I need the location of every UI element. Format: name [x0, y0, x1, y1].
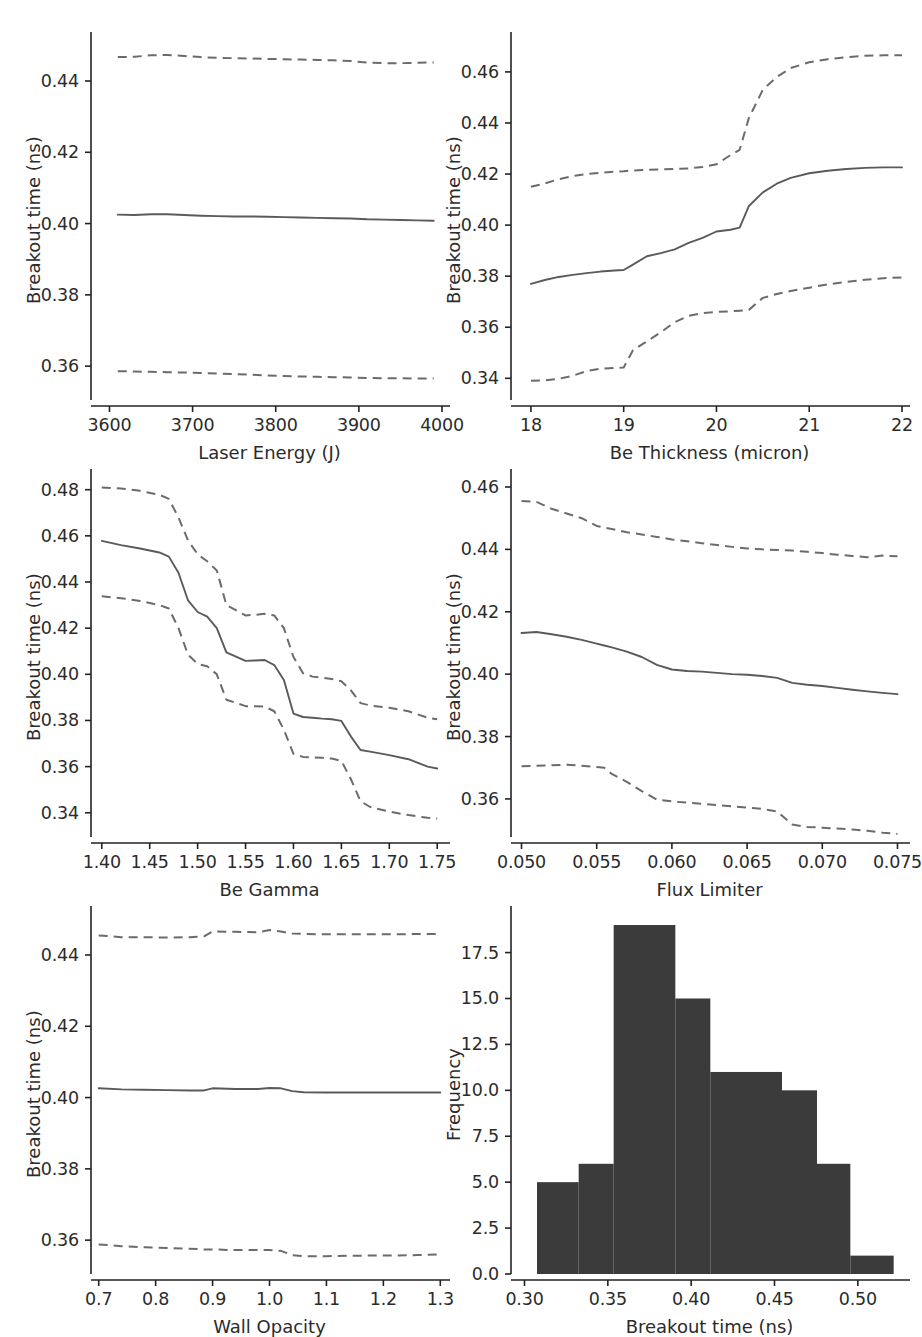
x-tick-label: 1.60	[274, 852, 312, 872]
x-tick-label: 18	[520, 415, 542, 435]
y-tick-label: 17.5	[461, 943, 499, 963]
y-tick-label: 0.40	[461, 664, 499, 684]
series-median	[102, 541, 437, 769]
x-tick-label: 1.50	[179, 852, 217, 872]
series-median	[531, 167, 902, 283]
histogram-bar	[675, 998, 710, 1274]
chart-canvas-breakout-histogram	[517, 914, 902, 1274]
x-tick-label: 1.45	[131, 852, 169, 872]
histogram-bar	[537, 1182, 579, 1274]
y-axis-title: Breakout time (ns)	[443, 136, 464, 304]
plot-area-be-thickness: 0.340.360.380.400.420.440.461819202122Be…	[517, 40, 902, 400]
x-tick-label: 1.75	[418, 852, 456, 872]
y-tick-label: 0.44	[461, 113, 499, 133]
x-axis-title: Wall Opacity	[213, 1316, 326, 1337]
x-tick-label: 3900	[337, 415, 381, 435]
series-lower-quantile	[531, 277, 902, 380]
y-tick-label: 0.34	[461, 368, 499, 388]
x-tick-label: 0.055	[572, 852, 621, 872]
series-median	[118, 214, 434, 220]
x-tick-label: 1.55	[226, 852, 264, 872]
plot-area-wall-opacity: 0.360.380.400.420.440.70.80.91.01.11.21.…	[97, 914, 442, 1274]
x-tick-label: 0.50	[839, 1289, 877, 1309]
chart-canvas-be-gamma	[97, 477, 442, 837]
histogram-bar	[817, 1164, 850, 1274]
x-tick-label: 21	[798, 415, 820, 435]
y-tick-label: 0.42	[41, 618, 79, 638]
y-tick-label: 0.36	[41, 1230, 79, 1250]
panel-laser-energy: 0.360.380.400.420.4436003700380039004000…	[0, 0, 460, 437]
chart-canvas-wall-opacity	[97, 914, 442, 1274]
x-tick-label: 0.40	[672, 1289, 710, 1309]
x-tick-label: 1.65	[322, 852, 360, 872]
series-upper-quantile	[522, 501, 898, 557]
chart-canvas-laser-energy	[97, 40, 442, 400]
y-tick-label: 0.48	[41, 480, 79, 500]
y-tick-label: 0.0	[472, 1264, 499, 1284]
x-tick-label: 1.3	[427, 1289, 454, 1309]
y-tick-label: 10.0	[461, 1080, 499, 1100]
y-tick-label: 0.42	[41, 1016, 79, 1036]
y-tick-label: 0.40	[41, 214, 79, 234]
x-tick-label: 4000	[420, 415, 464, 435]
series-upper-quantile	[118, 55, 434, 63]
y-tick-label: 0.36	[41, 757, 79, 777]
x-tick-label: 3600	[88, 415, 132, 435]
x-tick-label: 0.8	[142, 1289, 169, 1309]
y-tick-label: 0.38	[461, 266, 499, 286]
panel-wall-opacity: 0.360.380.400.420.440.70.80.91.01.11.21.…	[0, 874, 460, 1311]
y-tick-label: 0.44	[41, 572, 79, 592]
panel-breakout-histogram: 0.02.55.07.510.012.515.017.50.300.350.40…	[460, 874, 920, 1311]
series-median	[522, 632, 898, 694]
plot-area-laser-energy: 0.360.380.400.420.4436003700380039004000…	[97, 40, 442, 400]
x-tick-label: 22	[891, 415, 913, 435]
x-tick-label: 19	[613, 415, 635, 435]
x-tick-label: 0.070	[798, 852, 847, 872]
y-axis-title: Breakout time (ns)	[23, 136, 44, 304]
y-tick-label: 0.40	[461, 215, 499, 235]
series-upper-quantile	[531, 55, 902, 186]
panel-be-thickness: 0.340.360.380.400.420.440.461819202122Be…	[460, 0, 920, 437]
x-tick-label: 1.40	[83, 852, 121, 872]
y-tick-label: 0.46	[461, 62, 499, 82]
y-tick-label: 0.44	[461, 539, 499, 559]
y-tick-label: 0.46	[461, 477, 499, 497]
series-lower-quantile	[102, 596, 437, 818]
x-tick-label: 0.45	[755, 1289, 793, 1309]
y-tick-label: 0.42	[461, 602, 499, 622]
series-lower-quantile	[118, 371, 434, 378]
y-tick-label: 0.44	[41, 71, 79, 91]
x-axis-title: Breakout time (ns)	[626, 1316, 794, 1337]
y-tick-label: 0.36	[41, 356, 79, 376]
plot-area-be-gamma: 0.340.360.380.400.420.440.460.481.401.45…	[97, 477, 442, 837]
plot-area-breakout-histogram: 0.02.55.07.510.012.515.017.50.300.350.40…	[517, 914, 902, 1274]
y-tick-label: 0.44	[41, 945, 79, 965]
x-tick-label: 1.2	[370, 1289, 397, 1309]
y-tick-label: 7.5	[472, 1126, 499, 1146]
series-lower-quantile	[522, 765, 898, 834]
histogram-bar	[710, 1072, 782, 1274]
y-axis-title: Breakout time (ns)	[23, 1010, 44, 1178]
x-tick-label: 0.065	[723, 852, 772, 872]
x-tick-label: 0.7	[85, 1289, 112, 1309]
panel-flux-limiter: 0.360.380.400.420.440.460.0500.0550.0600…	[460, 437, 920, 874]
plot-area-flux-limiter: 0.360.380.400.420.440.460.0500.0550.0600…	[517, 477, 902, 837]
x-tick-label: 0.060	[647, 852, 696, 872]
x-tick-label: 0.9	[199, 1289, 226, 1309]
y-axis-title: Frequency	[443, 1048, 464, 1141]
y-axis-title: Breakout time (ns)	[443, 573, 464, 741]
series-lower-quantile	[99, 1244, 441, 1256]
y-tick-label: 0.38	[41, 285, 79, 305]
y-tick-label: 0.40	[41, 664, 79, 684]
panel-be-gamma: 0.340.360.380.400.420.440.460.481.401.45…	[0, 437, 460, 874]
y-tick-label: 0.36	[461, 789, 499, 809]
y-tick-label: 12.5	[461, 1034, 499, 1054]
x-tick-label: 3800	[254, 415, 298, 435]
y-axis-title: Breakout time (ns)	[23, 573, 44, 741]
y-tick-label: 2.5	[472, 1218, 499, 1238]
histogram-bar	[850, 1256, 893, 1274]
y-tick-label: 0.46	[41, 526, 79, 546]
y-tick-label: 15.0	[461, 988, 499, 1008]
y-tick-label: 0.38	[41, 710, 79, 730]
